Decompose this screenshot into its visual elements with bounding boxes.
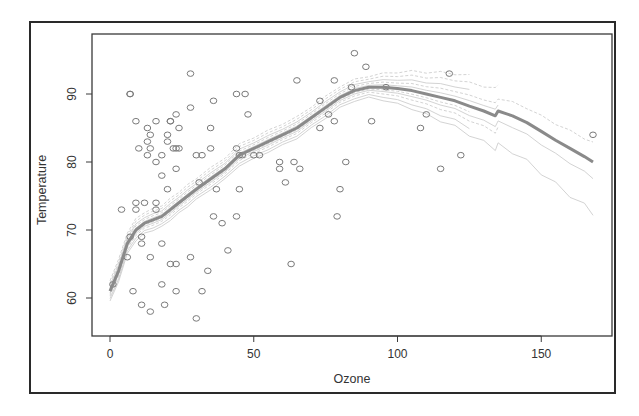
x-tick-label: 0 (107, 347, 114, 361)
y-axis: 60708090 (65, 87, 92, 305)
x-axis-title: Ozone (334, 372, 371, 386)
x-tick-label: 150 (531, 347, 551, 361)
scatter-plot: 050100150 60708090 Ozone Temperature (0, 0, 639, 416)
x-axis: 050100150 (107, 336, 552, 361)
y-axis-title: Temperature (35, 155, 49, 225)
y-tick-label: 90 (65, 87, 79, 101)
x-tick-label: 50 (247, 347, 261, 361)
x-tick-label: 100 (387, 347, 407, 361)
plot-area (92, 34, 612, 336)
y-tick-label: 60 (65, 291, 79, 305)
y-tick-label: 70 (65, 223, 79, 237)
y-tick-label: 80 (65, 155, 79, 169)
